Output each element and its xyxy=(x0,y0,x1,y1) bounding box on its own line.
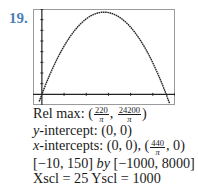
close-paren: , 0) xyxy=(166,137,185,153)
solution-text: Rel max: (220π, 24200π) y-intercept: (0,… xyxy=(33,106,195,186)
y-intercept-text: -intercept: (0, 0) xyxy=(39,122,132,138)
by-word: by xyxy=(97,155,110,171)
window-line: [−10, 150] by [−1000, 8000] xyxy=(33,156,195,171)
x-window: [−10, 150] xyxy=(33,155,97,171)
separator: , xyxy=(110,105,117,121)
x-intercepts-text: -intercepts: (0, 0), ( xyxy=(39,137,149,153)
fraction-440-pi: 440π xyxy=(150,139,165,156)
close-paren: ) xyxy=(142,105,147,121)
calculator-graph xyxy=(33,9,175,105)
fraction-220-pi: 220π xyxy=(94,106,109,123)
x-intercepts-line: x-intercepts: (0, 0), (440π, 0) xyxy=(33,138,195,155)
relmax-label: Rel max: ( xyxy=(33,105,93,121)
scale-line: Xscl = 25 Yscl = 1000 xyxy=(33,171,195,186)
relative-max-line: Rel max: (220π, 24200π) xyxy=(33,106,195,123)
y-intercept-line: y-intercept: (0, 0) xyxy=(33,123,195,138)
y-window: [−1000, 8000] xyxy=(110,155,195,171)
problem-number: 19. xyxy=(9,10,28,27)
fraction-24200-pi: 24200π xyxy=(118,106,141,123)
graph-frame xyxy=(34,10,175,105)
